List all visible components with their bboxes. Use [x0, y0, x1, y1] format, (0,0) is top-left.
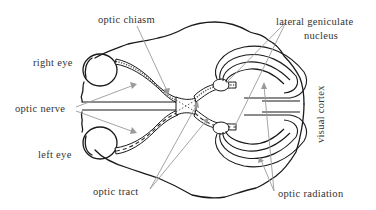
label-nucleus: nucleus	[304, 30, 338, 41]
left-optic-nerve	[115, 110, 178, 154]
label-optic-nerve: optic nerve	[15, 103, 65, 114]
label-optic-tract: optic tract	[93, 186, 139, 197]
label-optic-radiation: optic radiation	[278, 188, 344, 199]
diagram-canvas: optic chiasm lateral geniculate nucleus …	[0, 0, 376, 210]
label-right-eye: right eye	[33, 57, 73, 68]
visual-pathway-diagram: optic chiasm lateral geniculate nucleus …	[0, 0, 376, 210]
right-optic-nerve	[115, 59, 178, 103]
brain-outline-left	[81, 82, 84, 132]
label-left-eye: left eye	[38, 149, 72, 160]
label-visual-cortex: visual cortex	[315, 85, 326, 143]
right-eye-shape	[83, 54, 117, 86]
label-lateral-geniculate: lateral geniculate	[276, 16, 353, 27]
label-optic-chiasm: optic chiasm	[98, 14, 155, 25]
